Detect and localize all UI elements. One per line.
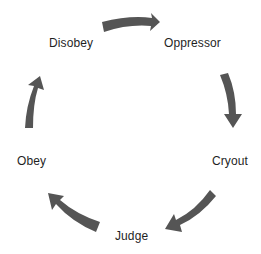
node-label-oppressor: Oppressor bbox=[164, 36, 221, 50]
arrow-disobey-to-oppressor-icon bbox=[102, 13, 160, 32]
cycle-arrows bbox=[0, 0, 261, 254]
cycle-diagram: Disobey Oppressor Cryout Judge Obey bbox=[0, 0, 261, 254]
arrow-obey-to-disobey-icon bbox=[25, 76, 44, 128]
node-label-obey: Obey bbox=[17, 154, 46, 168]
node-label-cryout: Cryout bbox=[212, 154, 248, 168]
arrow-judge-to-obey-icon bbox=[48, 193, 100, 232]
arrow-oppressor-to-cryout-icon bbox=[220, 73, 242, 128]
node-label-judge: Judge bbox=[115, 229, 148, 243]
arrow-cryout-to-judge-icon bbox=[165, 190, 216, 232]
node-label-disobey: Disobey bbox=[49, 36, 93, 50]
